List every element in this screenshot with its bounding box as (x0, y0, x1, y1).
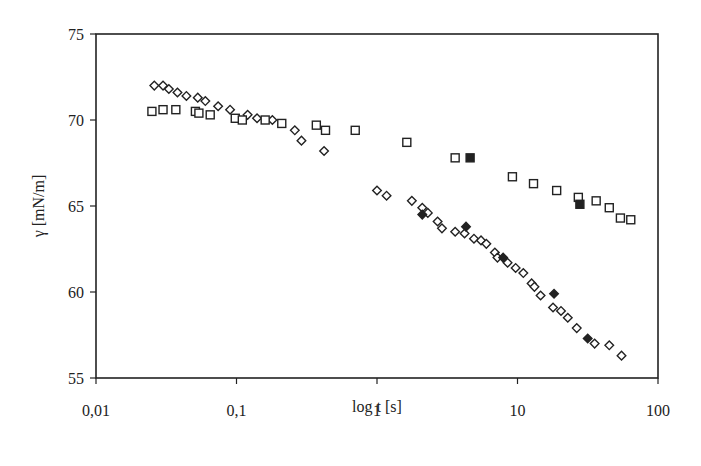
diamond-marker (590, 339, 599, 348)
square-marker (312, 121, 320, 129)
diamond-marker (408, 197, 417, 206)
square-marker (351, 126, 359, 134)
diamond-marker (563, 314, 572, 323)
square-marker (148, 107, 156, 115)
x-tick-label: 0,1 (227, 402, 247, 419)
diamond-marker (173, 88, 182, 97)
diamond-marker (320, 147, 329, 156)
diamond-marker (511, 264, 520, 273)
diamond-marker (583, 334, 592, 343)
square-marker (451, 154, 459, 162)
square-marker (508, 173, 516, 181)
diamond-marker (549, 303, 558, 312)
y-axis-label: γ [mN/m] (30, 175, 48, 239)
chart: 5560657075 0,010,1110100 log t [s] γ [mN… (0, 0, 701, 466)
square-marker (278, 119, 286, 127)
square-marker (616, 214, 624, 222)
x-tick-label: 0,01 (82, 402, 110, 419)
square-marker (576, 200, 584, 208)
diamond-marker (557, 307, 566, 316)
y-tick-label: 55 (68, 370, 84, 387)
square-marker (553, 187, 561, 195)
square-marker (195, 109, 203, 117)
y-axis: 5560657075 (68, 26, 96, 387)
square-marker (530, 180, 538, 188)
square-marker (403, 138, 411, 146)
x-tick-label: 100 (646, 402, 670, 419)
square-marker (261, 116, 269, 124)
y-tick-label: 75 (68, 26, 84, 43)
diamond-marker (214, 102, 223, 111)
x-axis-label: log t [s] (352, 398, 402, 416)
square-marker (206, 111, 214, 119)
y-tick-label: 70 (68, 112, 84, 129)
y-tick-label: 65 (68, 198, 84, 215)
diamond-marker (297, 136, 306, 145)
diamond-marker (519, 269, 528, 278)
diamond-marker (451, 228, 460, 237)
diamond-marker (291, 126, 300, 135)
square-marker (605, 204, 613, 212)
diamond-marker (470, 234, 479, 243)
x-tick-label: 10 (510, 402, 526, 419)
diamond-marker (226, 105, 235, 114)
diamond-marker (182, 92, 191, 101)
diamond-marker (617, 351, 626, 360)
data-points (148, 81, 635, 360)
diamond-marker (550, 289, 559, 298)
square-marker (466, 154, 474, 162)
square-marker (627, 216, 635, 224)
square-marker (592, 197, 600, 205)
square-marker (172, 106, 180, 114)
diamond-marker (253, 114, 262, 123)
diamond-marker (460, 229, 469, 238)
y-tick-label: 60 (68, 284, 84, 301)
diamond-marker (536, 291, 545, 300)
diamond-marker (605, 341, 614, 350)
diamond-marker (382, 191, 391, 200)
square-marker (322, 126, 330, 134)
diamond-marker (462, 222, 471, 231)
diamond-marker (150, 81, 159, 90)
square-marker (159, 106, 167, 114)
diamond-marker (373, 186, 382, 195)
diamond-marker (572, 324, 581, 333)
square-marker (238, 116, 246, 124)
